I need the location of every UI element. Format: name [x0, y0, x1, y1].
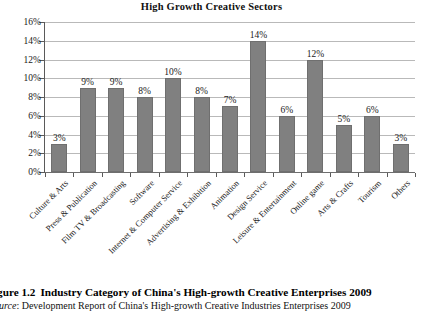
- x-axis-category-label-wrap: Internet & Computer Service: [177, 178, 184, 185]
- bar-value-label: 10%: [164, 67, 181, 77]
- bar[interactable]: [336, 125, 352, 172]
- bar-value-label: 7%: [224, 95, 237, 105]
- figure-caption-title: Industry Category of China's High-growth…: [40, 286, 371, 298]
- x-axis-tick: [159, 173, 160, 177]
- x-axis-tick: [415, 173, 416, 177]
- x-axis-category-label-wrap: Online game: [319, 178, 326, 185]
- source-text: Development Report of China's High-growt…: [22, 300, 351, 311]
- x-axis-tick: [187, 173, 188, 177]
- bar-value-label: 3%: [394, 133, 407, 143]
- bar[interactable]: [222, 106, 238, 172]
- bar-slot: 12%: [301, 22, 329, 173]
- bar-value-label: 14%: [250, 30, 267, 40]
- x-axis-category-labels: Culture & ArtsPress & PublicationFilm TV…: [45, 178, 415, 273]
- x-axis-category-label-wrap: Design Service: [262, 178, 269, 185]
- bar[interactable]: [137, 97, 153, 172]
- chart-plot-wrapper: 0%2%4%6%8%10%12%14%16% 3%9%9%8%10%8%7%14…: [0, 16, 423, 181]
- x-axis-category-label-wrap: Advertising & Exhibition: [206, 178, 213, 185]
- chart-title: High Growth Creative Sectors: [0, 1, 423, 12]
- bar-value-label: 9%: [81, 77, 94, 87]
- x-axis-tick: [73, 173, 74, 177]
- bar[interactable]: [108, 88, 124, 172]
- bar[interactable]: [279, 116, 295, 172]
- bar-slot: 8%: [187, 22, 215, 173]
- bar-series: 3%9%9%8%10%8%7%14%6%12%5%6%3%: [45, 22, 415, 173]
- bar-slot: 3%: [387, 22, 415, 173]
- x-axis-category-label-wrap: Animation: [234, 178, 241, 185]
- bar-slot: 3%: [45, 22, 73, 173]
- bar-slot: 5%: [330, 22, 358, 173]
- x-axis-category-label-wrap: Culture & Arts: [63, 178, 70, 185]
- bar-value-label: 8%: [138, 86, 151, 96]
- bar-slot: 6%: [273, 22, 301, 173]
- bar-slot: 10%: [159, 22, 187, 173]
- bar[interactable]: [80, 88, 96, 172]
- figure-source: ource: Development Report of China's Hig…: [0, 300, 423, 311]
- bar-value-label: 8%: [195, 86, 208, 96]
- y-axis-label: 10%: [0, 73, 44, 83]
- x-axis-category-label: Tourism: [356, 178, 383, 205]
- bar[interactable]: [194, 97, 210, 172]
- y-axis-label: 6%: [0, 111, 44, 121]
- bar-value-label: 6%: [366, 105, 379, 115]
- bar-slot: 8%: [130, 22, 158, 173]
- source-label: ource: [0, 300, 16, 311]
- x-axis-category-label-wrap: Film TV & Broadcasting: [120, 178, 127, 185]
- y-axis-label: 8%: [0, 92, 44, 102]
- x-axis-category-label-wrap: Software: [149, 178, 156, 185]
- x-axis-tick: [130, 173, 131, 177]
- x-axis-tick: [244, 173, 245, 177]
- x-axis-category-label-wrap: Arts & Crafts: [348, 178, 355, 185]
- x-axis-category-label-wrap: Others: [405, 178, 412, 185]
- x-axis-tick: [216, 173, 217, 177]
- bar-value-label: 3%: [53, 133, 66, 143]
- x-axis-category-label: Others: [389, 178, 412, 201]
- figure-caption: igure 1.2Industry Category of China's Hi…: [0, 286, 423, 298]
- x-axis-tick: [387, 173, 388, 177]
- bar[interactable]: [250, 41, 266, 172]
- bar-value-label: 9%: [110, 77, 123, 87]
- bar-slot: 9%: [102, 22, 130, 173]
- x-axis-category-label-wrap: Tourism: [376, 178, 383, 185]
- x-axis-tick: [330, 173, 331, 177]
- figure-container: High Growth Creative Sectors 0%2%4%6%8%1…: [0, 0, 423, 323]
- x-axis-tick: [301, 173, 302, 177]
- bar[interactable]: [307, 60, 323, 173]
- y-axis-label: 2%: [0, 148, 44, 158]
- y-axis-label: 4%: [0, 130, 44, 140]
- bar[interactable]: [51, 144, 67, 172]
- y-axis-label: 0%: [0, 167, 44, 177]
- x-axis-tick: [273, 173, 274, 177]
- x-axis-category-label-wrap: Press & Publication: [92, 178, 99, 185]
- caption-block: igure 1.2Industry Category of China's Hi…: [0, 286, 423, 311]
- y-axis-label: 14%: [0, 36, 44, 46]
- y-axis-label: 16%: [0, 17, 44, 27]
- bar-slot: 7%: [216, 22, 244, 173]
- bar-value-label: 6%: [281, 105, 294, 115]
- bar[interactable]: [393, 144, 409, 172]
- bar-slot: 6%: [358, 22, 386, 173]
- bar-value-label: 12%: [307, 49, 324, 59]
- bar[interactable]: [364, 116, 380, 172]
- bar[interactable]: [165, 78, 181, 172]
- figure-number: igure 1.2: [0, 286, 35, 298]
- x-axis-tick: [45, 173, 46, 177]
- x-axis-tick: [102, 173, 103, 177]
- bar-slot: 14%: [244, 22, 272, 173]
- y-axis-label: 12%: [0, 55, 44, 65]
- x-axis-category-label-wrap: Leisure & Entertainment: [291, 178, 298, 185]
- bar-slot: 9%: [73, 22, 101, 173]
- bar-value-label: 5%: [337, 114, 350, 124]
- x-axis-tick: [358, 173, 359, 177]
